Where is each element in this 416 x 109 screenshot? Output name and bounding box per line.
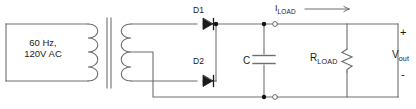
diode-d1-label: D1	[193, 6, 204, 16]
junction-dot-cap-top	[262, 22, 266, 26]
load-resistor-label: RLOAD	[310, 52, 338, 66]
output-terminal-bottom	[273, 95, 278, 100]
polarity-positive-label: +	[400, 26, 406, 39]
output-terminal-top	[273, 22, 278, 27]
output-voltage-symbol: V	[392, 49, 399, 60]
output-voltage-subscript: out	[399, 54, 410, 63]
ac-source-voltage: 120V AC	[24, 48, 62, 59]
diode-d2-label: D2	[193, 57, 204, 67]
ac-source-label: 60 Hz, 120V AC	[6, 38, 80, 60]
junction-dot-diode-node	[214, 22, 218, 26]
capacitor-c-label: C	[243, 55, 250, 67]
load-current-arrow	[305, 7, 349, 12]
load-current-subscript: LOAD	[278, 8, 296, 15]
transformer-core	[107, 18, 111, 88]
capacitor-c-symbol	[253, 56, 275, 64]
resistor-rload-symbol	[342, 49, 352, 72]
transformer-primary-winding	[88, 24, 98, 81]
load-resistor-subscript: LOAD	[317, 57, 337, 66]
ac-source-frequency: 60 Hz,	[29, 37, 56, 48]
output-voltage-label: Vout	[392, 49, 409, 63]
load-current-label: ILOAD	[275, 3, 296, 15]
diode-d2-symbol	[203, 76, 216, 87]
circuit-diagram-canvas: 60 Hz, 120V AC D1 D2 C ILOAD RLOAD + Vou…	[0, 0, 416, 109]
polarity-negative-label: -	[401, 68, 405, 81]
junction-dot-cap-bottom	[262, 95, 266, 99]
transformer-secondary-winding	[121, 24, 131, 81]
